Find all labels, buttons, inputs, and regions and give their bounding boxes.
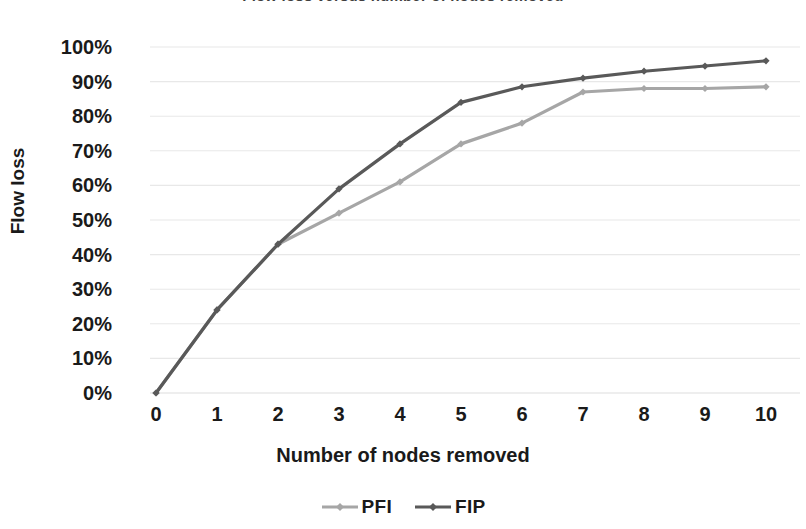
- x-tick-label: 7: [553, 404, 613, 424]
- data-series-layer: [152, 57, 769, 396]
- x-tick-label: 3: [309, 404, 369, 424]
- legend-item-fip[interactable]: FIP: [414, 496, 485, 518]
- data-point-marker: [701, 62, 708, 69]
- data-point-marker: [762, 57, 769, 64]
- x-axis-title: Number of nodes removed: [0, 444, 806, 467]
- series-line-fip: [156, 61, 766, 393]
- legend-label: PFI: [362, 496, 392, 518]
- x-tick-label: 0: [126, 404, 186, 424]
- data-point-marker: [518, 83, 525, 90]
- legend-swatch-pfi: [321, 500, 359, 514]
- data-point-marker: [640, 85, 647, 92]
- legend-label: FIP: [455, 496, 485, 518]
- series-line-pfi: [156, 87, 766, 393]
- x-tick-label: 8: [614, 404, 674, 424]
- legend-swatch-fip: [414, 500, 452, 514]
- x-tick-label: 10: [736, 404, 796, 424]
- x-tick-label: 4: [370, 404, 430, 424]
- chart-legend: PFIFIP: [0, 496, 806, 518]
- chart-container: Flow loss versus number of nodes removed…: [0, 0, 806, 529]
- data-point-marker: [762, 83, 769, 90]
- legend-item-pfi[interactable]: PFI: [321, 496, 392, 518]
- x-axis-tick-labels: 012345678910: [0, 404, 806, 434]
- x-tick-label: 6: [492, 404, 552, 424]
- x-tick-label: 5: [431, 404, 491, 424]
- data-point-marker: [701, 85, 708, 92]
- data-point-marker: [579, 75, 586, 82]
- x-tick-label: 9: [675, 404, 735, 424]
- data-point-marker: [640, 68, 647, 75]
- x-tick-label: 2: [248, 404, 308, 424]
- x-tick-label: 1: [187, 404, 247, 424]
